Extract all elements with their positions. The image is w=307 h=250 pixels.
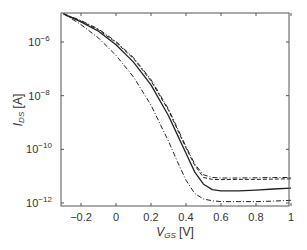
x-tick-label: −0.2 [70,211,92,223]
x-axis-ticks: −0.200.20.40.60.81 [70,13,294,223]
series-line-dashdot-lower [64,14,292,202]
plot-frame [61,13,289,206]
x-tick-label: 0.6 [213,211,228,223]
series-line-dashdot-upper [64,14,292,178]
y-tick-label: 10−10 [26,141,52,155]
plot-lines [64,14,292,202]
x-tick-label: 0.8 [248,211,263,223]
series-line-dashed [64,14,292,180]
x-axis-label: VGS [V] [156,225,194,240]
x-tick-label: 0 [113,211,119,223]
x-tick-label: 0.4 [178,211,193,223]
y-tick-label: 10−6 [28,34,50,48]
y-tick-label: 10−8 [28,88,50,102]
x-tick-label: 0.2 [143,211,158,223]
y-axis-label: IDS [A] [11,94,26,126]
y-tick-label: 10−12 [26,195,52,209]
y-axis-ticks: 10−610−810−1010−12 [26,34,289,209]
chart: −0.200.20.40.60.81 10−610−810−1010−12 VG… [0,0,307,250]
x-tick-label: 1 [288,211,294,223]
series-line-solid [64,14,292,191]
